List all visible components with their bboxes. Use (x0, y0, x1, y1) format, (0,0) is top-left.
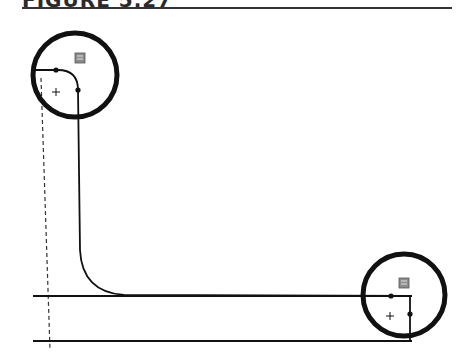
fillet-endpoint (53, 67, 58, 72)
center-mark-icon (52, 88, 60, 96)
fillet-endpoint (407, 311, 412, 316)
fillet-endpoint (75, 87, 80, 92)
highlight-circle-top-left (33, 33, 117, 117)
fillet-endpoint (388, 293, 393, 298)
sketch-canvas (0, 0, 470, 364)
fillet-constraint-icon[interactable] (75, 53, 85, 63)
center-mark-icon (386, 312, 394, 320)
construction-line (41, 78, 50, 350)
sketch-profile (33, 70, 410, 341)
fillet-constraint-icon[interactable] (399, 278, 409, 288)
